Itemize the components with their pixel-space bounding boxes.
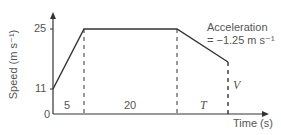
segment-label-5: 5 [64, 99, 70, 111]
segment-label-T: T [200, 98, 207, 113]
acceleration-annotation-line1: Acceleration [207, 21, 268, 33]
y-axis-label: Speed (m s⁻¹) [7, 25, 20, 105]
y-axis-arrow-icon [50, 12, 56, 19]
y-tick-25: 25 [34, 22, 46, 34]
acceleration-annotation-line2: = −1.25 m s⁻¹ [207, 34, 275, 47]
x-axis-label: Time (s) [233, 117, 273, 129]
y-tick-11: 11 [35, 82, 46, 94]
segment-label-20: 20 [124, 99, 136, 111]
final-speed-label: V [233, 78, 240, 93]
y-tick-0: 0 [44, 108, 50, 120]
speed-line [53, 29, 228, 89]
